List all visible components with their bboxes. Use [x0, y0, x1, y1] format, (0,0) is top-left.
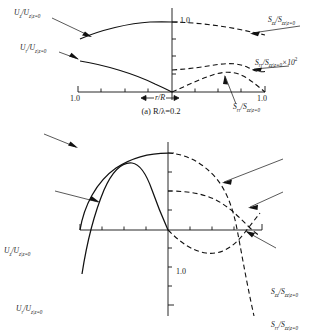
y-ticks-a	[172, 22, 178, 74]
left-arrow-icon-a	[141, 94, 154, 102]
label-uz-a: Uz/Uz|z=0	[14, 9, 40, 19]
leader-arrowheads-a	[69, 32, 262, 85]
label-szz-a: Szz/Szz|z=0	[268, 16, 295, 26]
x-tick-left-a: 1.0	[70, 95, 80, 103]
curve-srr-a	[172, 72, 265, 92]
curve-srr-scaled-a	[172, 64, 265, 72]
curve-szz-b	[168, 153, 254, 316]
leader-lines-b	[44, 134, 283, 248]
curve-uz-a	[80, 22, 172, 39]
figure-container: Uz/Uz|z=0 Ur/Uz|z=0 Szz/Szz|z=0 Srr/Szz|…	[0, 0, 322, 336]
panel-b-plot	[0, 120, 322, 336]
right-arrow-icon-a	[166, 94, 179, 102]
label-szz-b: Szz/Szz|z=0	[271, 288, 298, 298]
label-ur-a: Ur/Uz|z=0	[20, 44, 46, 54]
y-tick-top-a: 1.0	[180, 17, 190, 25]
caption-a: (a) R/λ=0.2	[0, 106, 322, 116]
x-ticks-b	[80, 224, 262, 230]
y-ticks-b	[168, 153, 174, 305]
label-ur-b: Ur/Uz|z=0	[16, 305, 42, 315]
y-tick-top-b: 1.0	[176, 268, 186, 276]
label-srr-scaled-a: Srr/Szz|z=0×102	[255, 57, 297, 68]
x-tick-right-a: 1.0	[257, 95, 267, 103]
curve-uz-b	[82, 163, 168, 274]
curve-srr-lower-b	[168, 213, 260, 253]
x-axis-label-a: r/R	[155, 94, 165, 102]
x-axis-label-group-a: r/R	[141, 94, 179, 102]
panel-b: Uz/Uz|z=0 Ur/Uz|z=0 Szz/Szz|z=0 Srr/Szz|…	[0, 120, 322, 336]
label-uz-b: Uz/Uz|z=0	[4, 247, 30, 257]
leader-arrowheads-b	[68, 142, 258, 238]
curve-srr-b	[168, 191, 260, 236]
curve-ur-a	[80, 61, 172, 92]
label-srr-b: Srr/Szz|z=0	[271, 321, 298, 331]
